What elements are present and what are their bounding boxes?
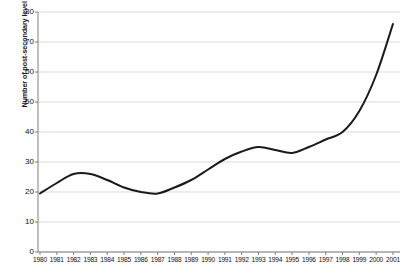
x-tick-label: 2001: [383, 256, 403, 264]
x-axis-tick-labels: 1980198119821983198419851986198719881989…: [0, 256, 408, 268]
data-series-line: [40, 24, 393, 194]
plot-area: [0, 0, 408, 273]
line-chart: Number of post-secondary level foreign s…: [0, 0, 408, 273]
gridlines: [38, 12, 400, 252]
